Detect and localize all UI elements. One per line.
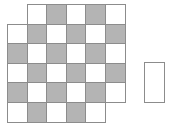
empty-square xyxy=(85,24,106,44)
shaded-square xyxy=(27,24,47,44)
shaded-square xyxy=(46,43,67,64)
shaded-square xyxy=(27,102,47,123)
shaded-square xyxy=(46,82,67,103)
empty-square xyxy=(46,63,67,83)
empty-square xyxy=(27,4,47,25)
empty-square xyxy=(46,102,67,123)
empty-square xyxy=(46,24,67,44)
empty-square xyxy=(7,102,28,123)
empty-square xyxy=(66,4,86,25)
shaded-square xyxy=(85,82,106,103)
empty-square xyxy=(27,82,47,103)
shaded-square xyxy=(66,24,86,44)
shaded-square xyxy=(66,102,86,123)
empty-square xyxy=(105,43,126,64)
shaded-square xyxy=(7,82,28,103)
empty-square xyxy=(85,102,106,123)
empty-square xyxy=(85,63,106,83)
shaded-square xyxy=(66,63,86,83)
domino-rectangle xyxy=(144,62,165,103)
empty-square xyxy=(7,24,28,44)
empty-square xyxy=(66,43,86,64)
empty-square xyxy=(27,43,47,64)
empty-square xyxy=(7,63,28,83)
shaded-square xyxy=(85,43,106,64)
shaded-square xyxy=(85,4,106,25)
shaded-square xyxy=(105,63,126,83)
shaded-square xyxy=(105,24,126,44)
empty-square xyxy=(105,82,126,103)
empty-square xyxy=(105,4,126,25)
empty-square xyxy=(66,82,86,103)
shaded-square xyxy=(7,43,28,64)
shaded-square xyxy=(46,4,67,25)
shaded-square xyxy=(27,63,47,83)
